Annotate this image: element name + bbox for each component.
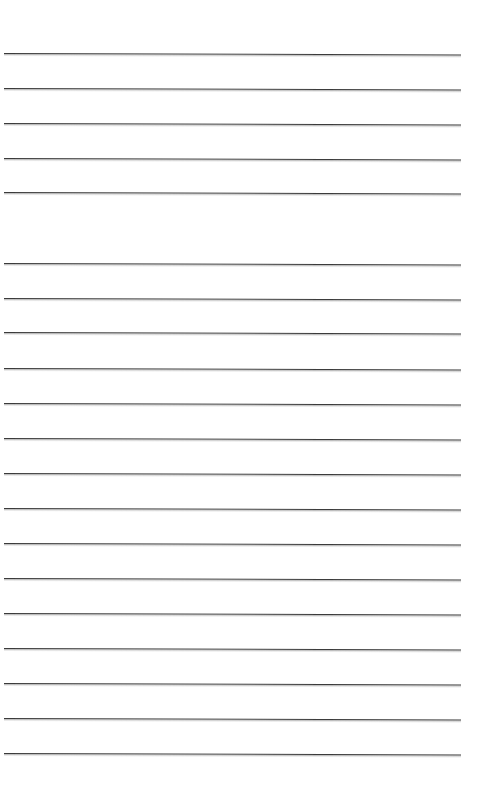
ruled-line [4, 753, 461, 755]
ruled-line [4, 648, 461, 650]
ruled-line [4, 88, 461, 90]
ruled-line [4, 403, 461, 405]
ruled-line [4, 368, 461, 370]
ruled-line [4, 473, 461, 475]
ruled-line [4, 508, 461, 510]
ruled-line [4, 438, 461, 440]
ruled-line [4, 683, 461, 685]
scanned-page [0, 0, 483, 793]
ruled-line [4, 543, 461, 545]
ruled-line [4, 298, 461, 300]
ruled-line [4, 158, 461, 160]
ruled-line [4, 332, 461, 334]
ruled-line [4, 578, 461, 580]
ruled-line [4, 192, 461, 194]
ruled-line [4, 53, 461, 55]
ruled-line [4, 263, 461, 265]
ruled-line [4, 613, 461, 615]
ruled-line [4, 123, 461, 125]
ruled-line [4, 718, 461, 720]
